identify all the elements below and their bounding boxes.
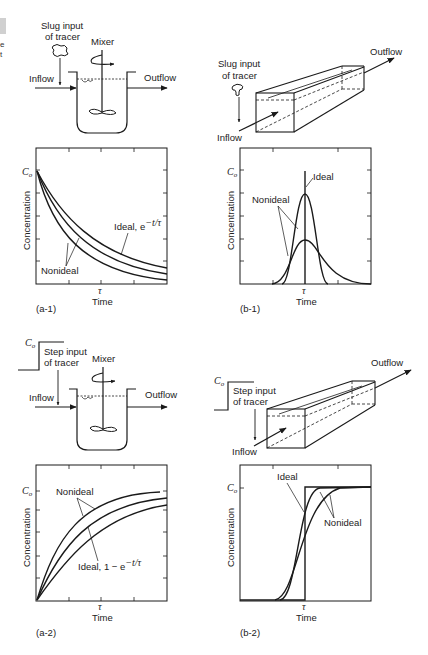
x-axis-label: Time: [296, 296, 317, 307]
nonideal-gradual-curve: [275, 487, 371, 600]
nonideal-annotation: Nonideal: [56, 486, 94, 497]
x-marker-tau: τ: [98, 285, 102, 296]
y-marker-c0: Co: [22, 485, 33, 498]
slug-input-label-2: of tracer: [45, 31, 80, 42]
inflow-arrow: [239, 112, 278, 131]
slug-input-label-2: of tracer: [222, 70, 257, 81]
slug-input-label: Slug input: [218, 58, 261, 69]
nonideal-leader: [278, 206, 298, 229]
nonideal-leader: [77, 498, 95, 509]
nonideal-annotation: Nonideal: [41, 265, 79, 276]
ideal-leader: [88, 527, 98, 561]
nonideal-annotation: Nonideal: [324, 517, 362, 528]
y-axis-label: Concentration: [21, 191, 32, 250]
x-marker-tau: τ: [302, 601, 306, 612]
tracer-slug-icon: [232, 84, 243, 95]
x-axis-label: Time: [296, 612, 317, 623]
slug-input-label: Slug input: [41, 20, 84, 31]
panel-a1-plot: Co Concentration Time τ Ideal, e−t/τ Non…: [21, 148, 167, 314]
panel-a2-cstr-diagram: Co Step input of tracer Mixer Inflow Out…: [18, 337, 177, 450]
outflow-label: Outflow: [144, 72, 176, 83]
outflow-label: Outflow: [370, 46, 402, 57]
y-axis-label: Concentration: [225, 191, 236, 250]
step-input-label-2: of tracer: [233, 396, 268, 407]
mixer-label: Mixer: [91, 36, 114, 47]
outflow-arrow: [364, 58, 394, 73]
panel-b1-pfr-diagram: Slug input of tracer Inflow Outflow: [217, 46, 402, 143]
outflow-label: Outflow: [145, 389, 177, 400]
inflow-label: Inflow: [217, 132, 242, 143]
caption-a2: (a-2): [36, 627, 56, 638]
y-marker-c0: Co: [227, 482, 238, 495]
inflow-label: Inflow: [29, 392, 54, 403]
step-input-label: Step input: [233, 385, 276, 396]
ideal-leader: [306, 178, 313, 187]
panel-b1-plot: Co Concentration Time τ Ideal Nonideal (…: [225, 148, 371, 314]
tracer-ripple-icon: [82, 397, 93, 399]
outflow-label: Outflow: [371, 357, 403, 368]
ideal-leader: [287, 483, 304, 512]
nonideal-upper-curve: [37, 492, 160, 600]
caption-a1: (a-1): [36, 303, 56, 314]
ideal-annotation: Ideal: [313, 171, 334, 182]
inflow-arrow: [254, 428, 286, 446]
step-marker-c0: Co: [25, 337, 36, 350]
step-input-label: Step input: [44, 346, 87, 357]
nonideal-steep-curve: [280, 487, 371, 600]
y-axis-label: Concentration: [21, 508, 32, 567]
ideal-annotation: Ideal, 1 − e−t/τ: [78, 557, 142, 572]
pipe-reactor: [267, 381, 375, 448]
caption-b1: (b-1): [240, 303, 260, 314]
step-marker-c0: Co: [214, 375, 225, 388]
x-axis-label: Time: [92, 296, 113, 307]
tracer-ripple-icon: [82, 80, 93, 82]
ideal-annotation: Ideal, e−t/τ: [114, 217, 161, 232]
nonideal-leader: [77, 498, 83, 516]
x-marker-tau: τ: [98, 601, 102, 612]
nonideal-annotation: Nonideal: [252, 194, 290, 205]
x-marker-tau: τ: [302, 285, 306, 296]
y-axis-label: Concentration: [225, 508, 236, 567]
tracer-slug-icon: [52, 45, 68, 57]
ideal-curve: [37, 498, 167, 600]
ideal-annotation: Ideal: [277, 471, 298, 482]
ideal-step-curve: [240, 487, 371, 600]
pipe-reactor: [256, 66, 364, 132]
nonideal-lower-curve: [37, 505, 167, 600]
ideal-leader: [121, 233, 128, 255]
x-axis-label: Time: [92, 612, 113, 623]
caption-b2: (b-2): [240, 627, 260, 638]
panel-b2-pfr-diagram: Co Step input of tracer Inflow Outflow: [214, 357, 411, 457]
step-input-label-2: of tracer: [44, 357, 79, 368]
y-marker-c0: Co: [22, 166, 33, 179]
outflow-arrow: [375, 370, 411, 388]
inflow-label: Inflow: [232, 446, 257, 457]
panel-a2-plot: Co Concentration Time τ Nonideal Ideal, …: [21, 465, 167, 638]
y-marker-c0: Co: [227, 166, 238, 179]
panel-b2-plot: Co Concentration Time τ Ideal Nonideal (…: [225, 465, 371, 638]
mixer-label: Mixer: [92, 353, 115, 364]
inflow-label: Inflow: [29, 73, 54, 84]
panel-a1-cstr-diagram: Slug input of tracer Mixer Inflow Outflo…: [29, 20, 176, 133]
nonideal-leader: [278, 206, 288, 256]
